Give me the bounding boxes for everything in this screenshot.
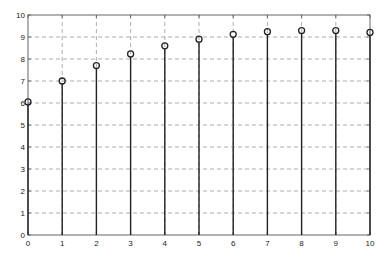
y-tick-label: 9 [21, 33, 26, 42]
x-tick-label: 3 [128, 239, 133, 248]
y-tick-label: 7 [21, 77, 26, 86]
y-tick-label: 1 [21, 209, 26, 218]
x-tick-label: 9 [334, 239, 339, 248]
x-tick-label: 4 [163, 239, 168, 248]
y-tick-label: 2 [21, 187, 26, 196]
y-tick-label: 4 [21, 143, 26, 152]
stem-plot: 012345678910 012345678910 [0, 0, 391, 262]
x-tick-label: 5 [197, 239, 202, 248]
x-tick-label: 0 [26, 239, 31, 248]
x-tick-label: 1 [60, 239, 65, 248]
x-tick-label: 8 [299, 239, 304, 248]
x-tick-label: 7 [265, 239, 270, 248]
y-tick-label: 3 [21, 165, 26, 174]
y-tick-label: 8 [21, 55, 26, 64]
y-axis-tick-labels: 012345678910 [16, 11, 25, 240]
x-tick-label: 6 [231, 239, 236, 248]
y-tick-label: 10 [16, 11, 25, 20]
x-tick-label: 10 [366, 239, 375, 248]
x-tick-label: 2 [94, 239, 99, 248]
y-tick-label: 5 [21, 121, 26, 130]
x-axis-tick-labels: 012345678910 [26, 239, 375, 248]
